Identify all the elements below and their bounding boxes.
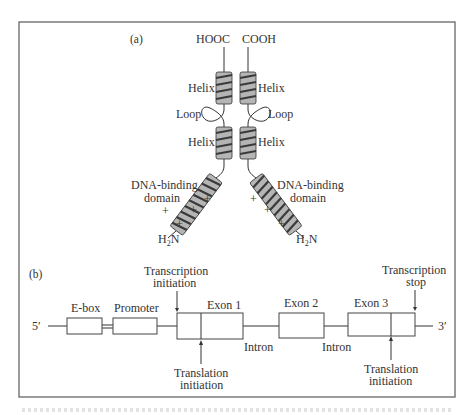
- panel-a: (a) HOOC COOH + + + +: [130, 32, 344, 248]
- right-loop-icon: [248, 104, 270, 127]
- intron-2-label: Intron: [322, 340, 351, 354]
- left-loop-label: Loop: [176, 107, 201, 121]
- exon-2-label: Exon 2: [284, 296, 318, 310]
- five-prime-label: 5′: [32, 319, 41, 333]
- right-loop-label: Loop: [268, 107, 293, 121]
- e-box-element: [67, 318, 102, 334]
- right-dna-binding-label-line1: DNA-binding: [277, 178, 344, 192]
- figure: (a) HOOC COOH + + + +: [0, 0, 474, 415]
- translation-initiation-3-label-line2: initiation: [369, 374, 412, 388]
- exon-3-element: [348, 313, 415, 336]
- promoter-label: Promoter: [114, 301, 159, 315]
- right-charge-1: +: [250, 192, 257, 206]
- right-n-terminus-label: H2N: [296, 232, 318, 248]
- left-n-terminus-label: H2N: [158, 232, 180, 248]
- e-box-label: E-box: [71, 301, 100, 315]
- left-charge-2: +: [204, 192, 211, 206]
- intron-1-label: Intron: [244, 340, 273, 354]
- panel-a-label: (a): [130, 33, 143, 46]
- left-terminus-label: HOOC: [196, 32, 230, 46]
- three-prime-label: 3′: [438, 319, 447, 333]
- left-top-helix-icon: [216, 72, 232, 104]
- left-charge-4: +: [176, 217, 183, 231]
- exon-2-element: [279, 313, 324, 338]
- right-charge-3: +: [278, 217, 285, 231]
- exon-3-label: Exon 3: [354, 296, 388, 310]
- exon-1-element: [177, 313, 243, 339]
- left-lower-helix-label: Helix: [188, 135, 215, 149]
- right-top-helix-icon: [240, 72, 256, 104]
- panel-b: (b) 5′ 3′ E-box Promoter Exon 1 Exon 2 E…: [29, 263, 447, 392]
- promoter-element: [113, 318, 157, 334]
- left-dna-binding-label-line1: DNA-binding: [131, 178, 198, 192]
- left-lower-helix-icon: [216, 127, 232, 159]
- transcription-stop-label-line2: stop: [406, 275, 426, 289]
- right-lower-helix-icon: [240, 127, 256, 159]
- right-lower-helix-label: Helix: [258, 135, 285, 149]
- truncated-caption: [22, 408, 452, 412]
- left-top-helix-label: Helix: [188, 81, 215, 95]
- figure-svg: (a) HOOC COOH + + + +: [0, 0, 474, 415]
- panel-b-label: (b): [29, 268, 43, 281]
- left-dna-binding-label-line2: domain: [144, 191, 180, 205]
- left-loop-icon: [202, 104, 224, 127]
- left-charge-3: +: [190, 203, 197, 217]
- right-charge-2: +: [264, 203, 271, 217]
- right-dna-binding-label-line2: domain: [290, 191, 326, 205]
- left-charge-1: +: [162, 204, 169, 218]
- right-terminus-label: COOH: [242, 32, 276, 46]
- transcription-initiation-label-line2: initiation: [153, 276, 196, 290]
- translation-initiation-1-label-line2: initiation: [180, 378, 223, 392]
- exon-1-label: Exon 1: [207, 298, 241, 312]
- right-top-helix-label: Helix: [258, 81, 285, 95]
